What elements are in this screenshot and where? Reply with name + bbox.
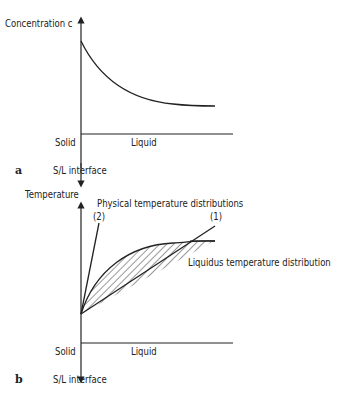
concentration-axis-label: Concentration c — [5, 18, 73, 29]
panel-a-letter: a — [15, 164, 22, 177]
liquid-label-a: Liquid — [131, 137, 157, 148]
solid-label-b: Solid — [55, 346, 76, 357]
physical-distributions-label: Physical temperature distributions — [97, 198, 243, 209]
liquidus-label: Liquidus temperature distribution — [188, 257, 331, 268]
liquid-label-b: Liquid — [131, 346, 157, 357]
solid-label-a: Solid — [55, 137, 76, 148]
curve-1-label: (1) — [210, 211, 222, 222]
physical-line-1 — [81, 226, 215, 314]
curve-2-label: (2) — [93, 211, 105, 222]
concentration-curve — [81, 41, 215, 106]
interface-label-b: S/L interface — [53, 374, 107, 385]
temperature-axis-label: Temperature — [25, 189, 79, 200]
panel-b-letter: b — [15, 373, 23, 386]
interface-label-a: S/L interface — [53, 165, 107, 176]
